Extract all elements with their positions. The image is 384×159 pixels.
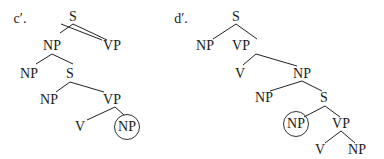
tree-branch [60, 24, 73, 33]
tree-node-vp: VP [332, 117, 350, 131]
example-label: d′. [174, 12, 188, 26]
tree-node-np: NP [43, 39, 61, 53]
tree-node-v: V [75, 120, 85, 134]
tree-branch [36, 54, 52, 64]
tree-branch [70, 82, 104, 92]
tree-node-v: V [315, 143, 325, 157]
tree-branch [87, 107, 115, 120]
tree-node-np: NP [348, 143, 366, 157]
tree-node-s: S [66, 67, 74, 81]
tree-node-np: NP [20, 67, 38, 81]
tree-branch [270, 81, 302, 91]
tree-branch [52, 54, 73, 64]
tree-branch [256, 54, 297, 66]
tree-node-np: NP [255, 91, 273, 105]
highlight-circle [283, 111, 309, 137]
tree-node-np: NP [293, 67, 311, 81]
example-label: c′. [14, 12, 27, 26]
tree-node-s: S [320, 91, 328, 105]
tree-branch [325, 131, 341, 143]
tree-node-v: V [235, 67, 245, 81]
tree-branch [213, 24, 236, 39]
tree-branch [73, 24, 107, 40]
tree-branch [304, 106, 325, 117]
tree-edges [0, 0, 384, 159]
tree-node-s: S [232, 10, 240, 24]
tree-branch [56, 82, 70, 92]
highlight-circle [114, 114, 140, 140]
tree-node-vp: VP [103, 93, 121, 107]
tree-branch [236, 24, 257, 39]
tree-node-vp: VP [103, 39, 121, 53]
tree-branch [243, 54, 256, 65]
tree-node-vp: VP [232, 39, 250, 53]
tree-branch [61, 24, 102, 40]
tree-node-np: NP [40, 93, 58, 107]
tree-node-np: NP [196, 39, 214, 53]
tree-node-s: S [69, 10, 77, 24]
tree-branch [302, 81, 322, 91]
